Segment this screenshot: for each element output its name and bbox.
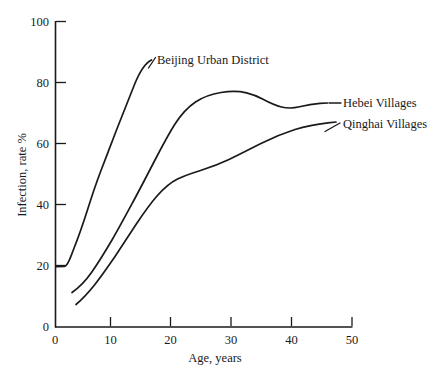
x-axis-ticks: [111, 317, 353, 326]
x-tick-label-50: 50: [346, 333, 359, 347]
leader-line-qinghai: [325, 123, 340, 132]
y-axis-title: Infection, rate %: [15, 133, 29, 217]
x-tick-label-10: 10: [104, 333, 117, 347]
y-tick-label-100: 100: [30, 15, 49, 29]
y-axis-tick-labels: 100 80 60 40 20 0: [30, 15, 49, 334]
x-tick-label-30: 30: [225, 333, 238, 347]
x-axis-title: Age, years: [188, 351, 242, 365]
x-tick-label-40: 40: [285, 333, 298, 347]
y-tick-label-0: 0: [43, 320, 49, 334]
y-tick-label-60: 60: [37, 137, 50, 151]
series-label-beijing: Beijing Urban District: [157, 53, 269, 67]
y-tick-label-80: 80: [37, 76, 50, 90]
y-tick-label-40: 40: [37, 198, 50, 212]
chart-figure: 100 80 60 40 20 0 0 10 20 30 40 50 Age, …: [0, 0, 445, 379]
y-axis-ticks: [56, 22, 66, 266]
x-axis-tick-labels: 0 10 20 30 40 50: [52, 333, 358, 347]
y-tick-label-20: 20: [37, 259, 50, 273]
x-tick-label-20: 20: [164, 333, 177, 347]
x-tick-label-0: 0: [52, 333, 58, 347]
series-label-qinghai: Qinghai Villages: [343, 117, 427, 131]
series-line-beijing: [56, 60, 151, 267]
leader-line-beijing: [149, 58, 156, 69]
series-line-qinghai: [76, 122, 336, 305]
series-label-hebei: Hebei Villages: [343, 96, 417, 110]
line-chart-canvas: 100 80 60 40 20 0 0 10 20 30 40 50 Age, …: [0, 0, 445, 379]
